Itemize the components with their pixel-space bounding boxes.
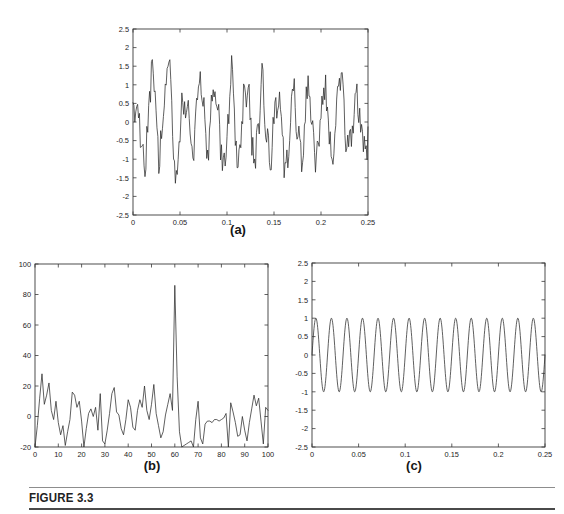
x-tick-label: 30 [101,450,109,459]
x-tick-label: 0 [131,218,135,227]
y-tick-label: 0 [304,351,308,360]
data-trace [35,285,268,447]
y-tick-label: 100 [19,260,31,269]
x-tick-label: 0.15 [267,218,281,227]
x-tick-label: 90 [241,450,249,459]
subfigure-label-a: (a) [220,222,256,237]
y-tick-label: 40 [23,351,31,360]
x-tick-label: 80 [217,450,225,459]
y-tick-label: -0.5 [295,369,308,378]
y-tick-label: 2 [125,43,129,52]
y-tick-label: 1 [304,314,308,323]
subfigure-label-b: (b) [134,458,170,473]
y-tick-label: -2.5 [295,443,308,452]
x-tick-label: 0.25 [538,450,552,459]
figure-caption-block: FIGURE 3.3 [29,487,555,510]
panel-c-plot: 00.050.10.150.20.25-2.5-2-1.5-1-0.500.51… [278,248,564,486]
x-tick-label: 0 [33,450,37,459]
figure-caption-title: FIGURE 3.3 [29,488,513,508]
y-tick-label: 80 [23,290,31,299]
y-tick-label: -1 [301,388,308,397]
y-tick-label: 0 [125,118,129,127]
x-tick-label: 0.25 [361,218,375,227]
x-tick-label: 60 [171,450,179,459]
data-trace [133,56,368,184]
x-tick-label: 0 [310,450,314,459]
plot-frame [133,29,368,215]
data-trace [312,318,545,392]
x-tick-label: 20 [77,450,85,459]
chart-panel-b: 0102030405060708090100-20020406080100 [2,248,292,486]
x-tick-label: 0.2 [316,218,326,227]
x-tick-label: 40 [124,450,132,459]
x-tick-label: 0.05 [351,450,365,459]
y-tick-label: 0.5 [298,332,308,341]
y-tick-label: 1.5 [119,62,129,71]
x-tick-label: 70 [194,450,202,459]
x-tick-label: 10 [54,450,62,459]
x-tick-label: 0.15 [445,450,459,459]
y-tick-label: -2 [122,192,129,201]
x-tick-label: 0.05 [173,218,187,227]
x-tick-label: 100 [262,450,274,459]
y-tick-label: -20 [20,443,31,452]
chart-panel-a: 00.050.10.150.20.25-2.5-2-1.5-1-0.500.51… [96,12,388,248]
y-tick-label: 2.5 [119,25,129,34]
y-tick-label: -2 [301,424,308,433]
y-tick-label: -1.5 [116,174,129,183]
y-tick-label: 60 [23,321,31,330]
y-tick-label: -1 [122,155,129,164]
y-tick-label: 2 [304,277,308,286]
y-tick-label: 20 [23,382,31,391]
panel-b-plot: 0102030405060708090100-20020406080100 [2,248,292,486]
panel-a-plot: 00.050.10.150.20.25-2.5-2-1.5-1-0.500.51… [96,12,388,248]
x-tick-label: 0.2 [493,450,503,459]
y-tick-label: 1 [125,81,129,90]
y-tick-label: 1.5 [298,296,308,305]
y-tick-label: 2.5 [298,259,308,268]
subfigure-label-c: (c) [396,458,432,473]
caption-rule-bottom [29,508,555,510]
y-tick-label: -1.5 [295,406,308,415]
y-tick-label: -0.5 [116,136,129,145]
y-tick-label: 0.5 [119,99,129,108]
figure-3-3: 00.050.10.150.20.25-2.5-2-1.5-1-0.500.51… [0,0,564,514]
chart-panel-c: 00.050.10.150.20.25-2.5-2-1.5-1-0.500.51… [278,248,564,486]
y-tick-label: 0 [27,412,31,421]
y-tick-label: -2.5 [116,211,129,220]
